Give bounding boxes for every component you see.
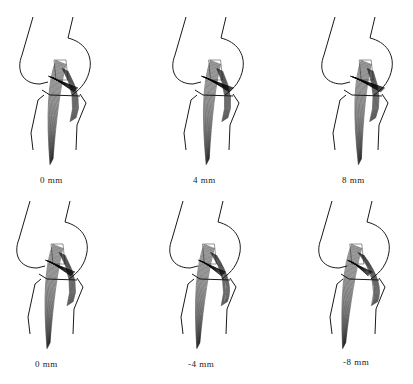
panel-caption: 4 mm: [193, 175, 216, 185]
tibia-outline: [330, 279, 343, 334]
femur-outline: [173, 17, 201, 84]
figure: 0 mm 4 mm 8 mm 0 mm -4 mm -8 mm: [0, 0, 413, 384]
femur-outline: [322, 17, 350, 84]
knee-diagram: [0, 0, 138, 190]
panel-top-left: 0 mm: [0, 0, 138, 190]
tibia-outline: [184, 95, 197, 150]
panel-top-mid: 4 mm: [140, 0, 278, 190]
knee-diagram: [273, 190, 411, 380]
panel-bottom-mid: -4 mm: [140, 190, 278, 380]
tibia-outline: [28, 279, 41, 334]
panel-bottom-right: -8 mm: [273, 190, 411, 380]
panel-bottom-left: 0 mm: [0, 190, 138, 380]
panel-caption: -4 mm: [188, 359, 214, 369]
tibia-outline-right: [378, 94, 388, 150]
femur-outline: [319, 201, 347, 268]
tibia-outline-right: [229, 94, 239, 150]
panel-caption: 0 mm: [35, 359, 58, 369]
panel-caption: -8 mm: [343, 357, 369, 367]
panel-top-right: 8 mm: [273, 0, 411, 190]
tibia-outline: [181, 279, 194, 334]
panel-caption: 0 mm: [40, 175, 63, 185]
knee-diagram: [0, 190, 138, 380]
knee-diagram: [140, 0, 278, 190]
femur-outline: [170, 201, 198, 268]
tibia-outline: [31, 95, 44, 150]
femur-outline: [20, 17, 48, 84]
tibia-outline: [333, 95, 346, 150]
tibia-outline-right: [226, 278, 236, 334]
femur-outline: [17, 201, 45, 268]
knee-diagram: [140, 190, 278, 380]
panel-caption: 8 mm: [342, 175, 365, 185]
knee-diagram: [273, 0, 411, 190]
